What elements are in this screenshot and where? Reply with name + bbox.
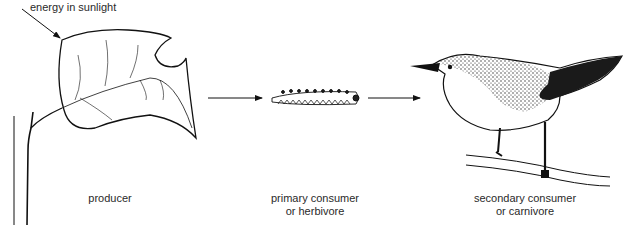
primary-consumer-label-line1: primary consumer [255, 192, 375, 205]
bird-illustration [410, 54, 622, 186]
energy-in-sunlight-label: energy in sunlight [30, 1, 130, 14]
producer-label-line1: producer [88, 192, 131, 204]
secondary-consumer-label-line1: secondary consumer [460, 192, 590, 205]
secondary-consumer-label-line2: or carnivore [460, 205, 590, 218]
primary-consumer-label: primary consumer or herbivore [255, 192, 375, 218]
secondary-consumer-label: secondary consumer or carnivore [460, 192, 590, 218]
producer-label: producer [60, 192, 160, 205]
primary-consumer-label-line2: or herbivore [255, 205, 375, 218]
caterpillar-illustration [272, 90, 359, 105]
